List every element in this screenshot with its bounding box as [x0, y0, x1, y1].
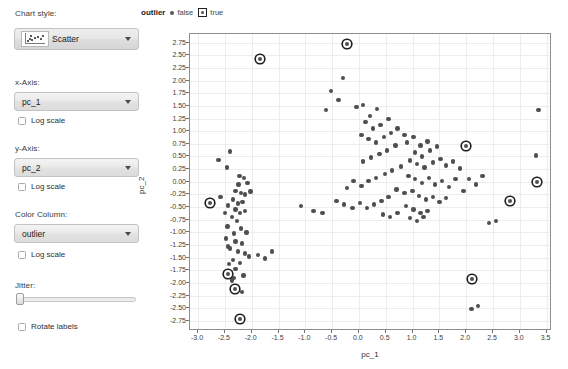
data-point[interactable] [239, 226, 243, 230]
data-point[interactable] [263, 256, 267, 260]
data-point[interactable] [422, 165, 426, 169]
data-point[interactable] [410, 189, 414, 193]
data-point[interactable] [232, 276, 236, 280]
data-point[interactable] [324, 108, 328, 112]
data-point-outlier[interactable] [258, 57, 262, 61]
data-point[interactable] [408, 158, 412, 162]
data-point-outlier[interactable] [208, 201, 212, 205]
data-point[interactable] [420, 154, 424, 158]
data-point[interactable] [386, 195, 390, 199]
jitter-slider-track[interactable] [16, 297, 136, 302]
data-point[interactable] [334, 199, 338, 203]
data-point[interactable] [375, 107, 379, 111]
data-point[interactable] [231, 258, 235, 262]
data-point[interactable] [237, 174, 241, 178]
data-point[interactable] [218, 195, 222, 199]
data-point[interactable] [236, 249, 240, 253]
data-point[interactable] [395, 211, 399, 215]
data-point-outlier[interactable] [470, 277, 474, 281]
data-point[interactable] [232, 231, 236, 235]
data-point[interactable] [225, 224, 229, 228]
data-point[interactable] [415, 219, 419, 223]
data-point[interactable] [458, 166, 462, 170]
data-point[interactable] [336, 98, 340, 102]
data-point[interactable] [240, 200, 244, 204]
data-point[interactable] [420, 181, 424, 185]
data-point[interactable] [350, 206, 354, 210]
data-point[interactable] [427, 176, 431, 180]
data-point[interactable] [405, 140, 409, 144]
data-point[interactable] [425, 139, 429, 143]
data-point[interactable] [431, 195, 435, 199]
data-point[interactable] [444, 196, 448, 200]
data-point[interactable] [377, 152, 381, 156]
data-point[interactable] [487, 221, 491, 225]
data-point[interactable] [248, 189, 252, 193]
data-point[interactable] [351, 179, 355, 183]
data-point[interactable] [394, 187, 398, 191]
data-point[interactable] [371, 126, 375, 130]
data-point[interactable] [428, 148, 432, 152]
data-point[interactable] [361, 159, 365, 163]
data-point[interactable] [435, 144, 439, 148]
data-point[interactable] [359, 184, 363, 188]
data-point[interactable] [240, 241, 244, 245]
data-point-outlier[interactable] [345, 42, 349, 46]
legend-item-false[interactable]: false [170, 8, 193, 17]
data-point-outlier[interactable] [226, 272, 230, 276]
data-point[interactable] [402, 133, 406, 137]
data-point[interactable] [243, 192, 247, 196]
data-point[interactable] [417, 194, 421, 198]
data-point[interactable] [270, 249, 274, 253]
data-point[interactable] [233, 239, 237, 243]
data-point[interactable] [368, 114, 372, 118]
data-point[interactable] [461, 189, 465, 193]
data-point[interactable] [233, 267, 237, 271]
data-point[interactable] [342, 202, 346, 206]
data-point[interactable] [224, 236, 228, 240]
data-point[interactable] [389, 131, 393, 135]
data-point-outlier[interactable] [464, 144, 468, 148]
data-point[interactable] [242, 176, 246, 180]
data-point[interactable] [425, 209, 429, 213]
data-point[interactable] [223, 211, 227, 215]
data-point[interactable] [451, 159, 455, 163]
data-point[interactable] [480, 174, 484, 178]
data-point[interactable] [228, 149, 232, 153]
data-point-outlier[interactable] [233, 287, 237, 291]
data-point[interactable] [320, 211, 324, 215]
data-point[interactable] [243, 209, 247, 213]
data-point[interactable] [433, 182, 437, 186]
data-point[interactable] [245, 181, 249, 185]
data-point[interactable] [386, 117, 390, 121]
data-point[interactable] [227, 262, 231, 266]
data-point[interactable] [438, 157, 442, 161]
data-point[interactable] [233, 189, 237, 193]
data-point[interactable] [424, 197, 428, 201]
data-point[interactable] [359, 133, 363, 137]
data-point[interactable] [476, 304, 480, 308]
legend-item-true[interactable]: true [198, 8, 223, 17]
data-point[interactable] [238, 211, 242, 215]
data-point[interactable] [231, 197, 235, 201]
data-point-outlier[interactable] [535, 180, 539, 184]
data-point[interactable] [536, 108, 540, 112]
rotate-labels-checkbox[interactable]: Rotate labels [18, 322, 78, 331]
data-point[interactable] [385, 148, 389, 152]
data-point[interactable] [444, 163, 448, 167]
data-point[interactable] [374, 140, 378, 144]
color-log-scale-checkbox[interactable]: Log scale [18, 250, 65, 259]
data-point[interactable] [469, 307, 473, 311]
data-point[interactable] [345, 186, 349, 190]
data-point[interactable] [358, 201, 362, 205]
data-point[interactable] [418, 143, 422, 147]
data-point[interactable] [244, 230, 248, 234]
data-point[interactable] [236, 201, 240, 205]
data-point[interactable] [413, 150, 417, 154]
data-point[interactable] [236, 182, 240, 186]
data-point[interactable] [431, 160, 435, 164]
data-point[interactable] [411, 207, 415, 211]
data-point[interactable] [447, 185, 451, 189]
data-point[interactable] [226, 244, 230, 248]
data-point[interactable] [369, 155, 373, 159]
